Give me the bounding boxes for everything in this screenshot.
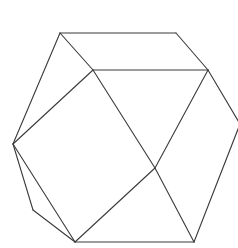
edge-EI: [13, 144, 75, 242]
edge-DG: [155, 70, 208, 168]
polyhedron-diagram: [0, 0, 238, 248]
edge-EH: [13, 144, 33, 210]
edge-AE: [13, 33, 60, 144]
edge-GJ: [155, 168, 194, 242]
edge-FJ: [194, 124, 238, 242]
edge-BD: [176, 33, 208, 70]
edge-GI: [75, 168, 155, 242]
edge-EC: [13, 70, 93, 144]
polyhedron-svg: [0, 0, 238, 248]
edge-AC: [60, 33, 93, 70]
edge-HI: [33, 210, 75, 242]
edge-DF: [208, 70, 238, 124]
edge-CG: [93, 70, 155, 168]
